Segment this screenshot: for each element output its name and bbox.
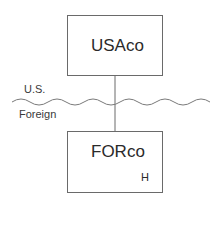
foreign-side-label: Foreign (19, 108, 56, 120)
forco-label: FORco (91, 142, 145, 162)
forco-note-label: H (141, 171, 149, 183)
border-wave-line (12, 99, 210, 105)
usaco-label: USAco (91, 36, 144, 56)
forco-entity-box (67, 131, 163, 193)
us-side-label: U.S. (24, 83, 45, 95)
